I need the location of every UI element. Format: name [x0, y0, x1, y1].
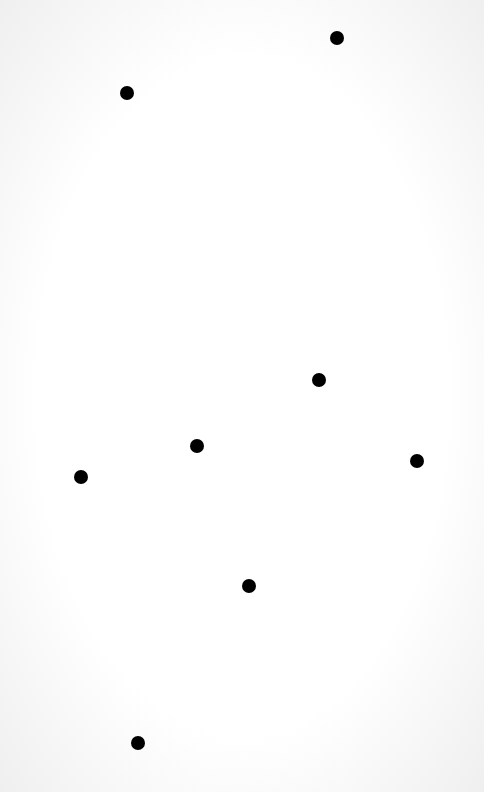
dot-8 [131, 736, 145, 750]
dot-2 [120, 86, 134, 100]
dot-1 [330, 31, 344, 45]
dot-4 [190, 439, 204, 453]
paper-background [0, 0, 484, 792]
dot-6 [410, 454, 424, 468]
dot-3 [312, 373, 326, 387]
dot-7 [242, 579, 256, 593]
dot-5 [74, 470, 88, 484]
